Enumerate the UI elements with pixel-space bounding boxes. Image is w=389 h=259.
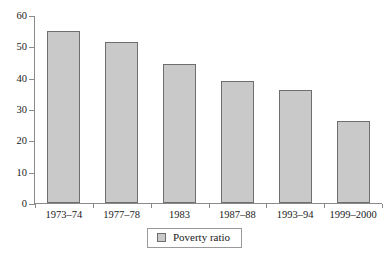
y-tick-label: 10 xyxy=(17,167,28,178)
y-tick-mark xyxy=(29,79,34,80)
legend: Poverty ratio xyxy=(0,228,389,248)
legend-swatch-poverty-ratio xyxy=(157,233,166,242)
x-tick-mark xyxy=(35,204,36,208)
x-axis-ticks xyxy=(35,204,382,208)
y-tick-mark xyxy=(29,110,34,111)
x-tick-label: 1973–74 xyxy=(35,210,93,221)
y-tick-mark xyxy=(29,47,34,48)
bar-slot xyxy=(93,16,151,203)
bar-1977-78 xyxy=(105,42,138,203)
x-tick-mark xyxy=(151,204,152,208)
x-tick-label: 1977–78 xyxy=(93,210,151,221)
x-tick-mark xyxy=(93,204,94,208)
y-tick-label: 50 xyxy=(17,42,28,53)
y-tick-label: 20 xyxy=(17,136,28,147)
bar-slot xyxy=(35,16,93,203)
bar-slot xyxy=(266,16,324,203)
bar-1993-94 xyxy=(279,90,312,203)
x-tick-mark xyxy=(209,204,210,208)
y-tick-mark xyxy=(29,141,34,142)
y-tick-mark xyxy=(29,204,34,205)
bar-series-poverty-ratio xyxy=(35,16,382,203)
bar-1983 xyxy=(163,64,196,203)
y-tick-mark xyxy=(29,173,34,174)
bar-1987-88 xyxy=(221,81,254,203)
plot-area: 0102030405060 1973–741977–7819831987–881… xyxy=(34,16,382,204)
x-tick-label: 1993–94 xyxy=(266,210,324,221)
legend-box: Poverty ratio xyxy=(147,228,242,248)
x-tick-mark xyxy=(324,204,325,208)
x-tick-label: 1999–2000 xyxy=(324,210,382,221)
bar-slot xyxy=(208,16,266,203)
bar-slot xyxy=(324,16,382,203)
y-tick-label: 60 xyxy=(17,11,28,22)
bar-1999-2000 xyxy=(337,121,370,203)
x-axis-labels: 1973–741977–7819831987–881993–941999–200… xyxy=(35,210,382,221)
x-tick-mark xyxy=(382,204,383,208)
y-tick-label: 0 xyxy=(22,199,27,210)
chart-page: 0102030405060 1973–741977–7819831987–881… xyxy=(0,0,389,259)
y-tick-label: 30 xyxy=(17,105,28,116)
x-tick-label: 1987–88 xyxy=(208,210,266,221)
bar-slot xyxy=(151,16,209,203)
bar-1973-74 xyxy=(47,31,80,203)
legend-label-poverty-ratio: Poverty ratio xyxy=(173,232,230,243)
x-tick-mark xyxy=(266,204,267,208)
y-tick-label: 40 xyxy=(17,73,28,84)
x-tick-label: 1983 xyxy=(151,210,209,221)
y-tick-mark xyxy=(29,16,34,17)
